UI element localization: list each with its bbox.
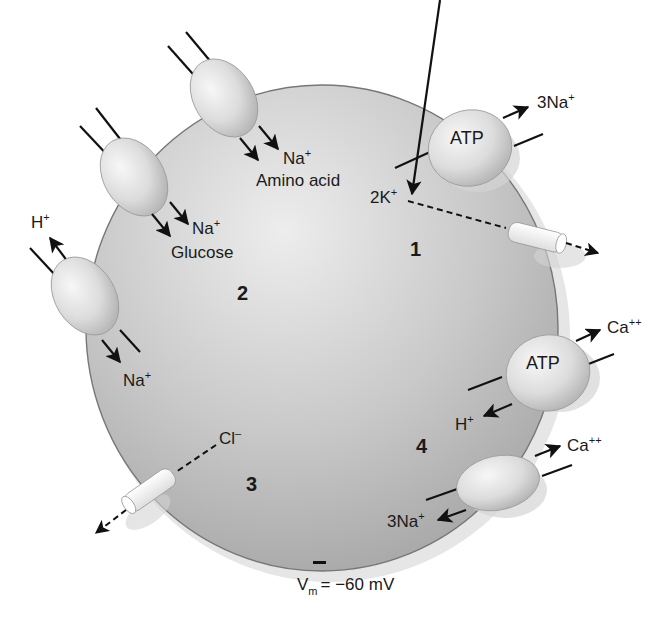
atp-label-ca-h: ATP	[526, 353, 560, 373]
ion-label-ca-out-atpase: Ca++	[607, 316, 642, 337]
ion-arrow	[50, 238, 68, 262]
atp-label-na-k: ATP	[450, 128, 484, 148]
region-number-2: 2	[237, 282, 248, 304]
region-number-3: 3	[246, 473, 257, 495]
membrane-line	[514, 134, 543, 146]
membrane-line	[30, 248, 56, 276]
ion-label-3na-out: 3Na+	[537, 91, 575, 112]
region-number-4: 4	[416, 435, 428, 457]
substrate-label-amino-acid: Amino acid	[256, 171, 340, 190]
membrane-line	[542, 465, 572, 476]
cell-transport-diagram: 1 2 3 4 ATP ATP 3Na+ 2K+ Na+ Amino acid …	[0, 0, 672, 617]
ion-arrow-out	[576, 330, 600, 341]
ion-label-ca-out-exchanger: Ca++	[567, 434, 602, 455]
substrate-label-glucose: Glucose	[171, 243, 233, 262]
ion-arrow-out	[96, 510, 126, 533]
ion-arrow-out	[503, 107, 528, 118]
interior-negative-sign	[313, 561, 326, 564]
diagram-canvas: 1 2 3 4 ATP ATP 3Na+ 2K+ Na+ Amino acid …	[0, 0, 672, 617]
ion-label-h-out: H+	[31, 211, 50, 232]
region-number-1: 1	[410, 238, 421, 260]
